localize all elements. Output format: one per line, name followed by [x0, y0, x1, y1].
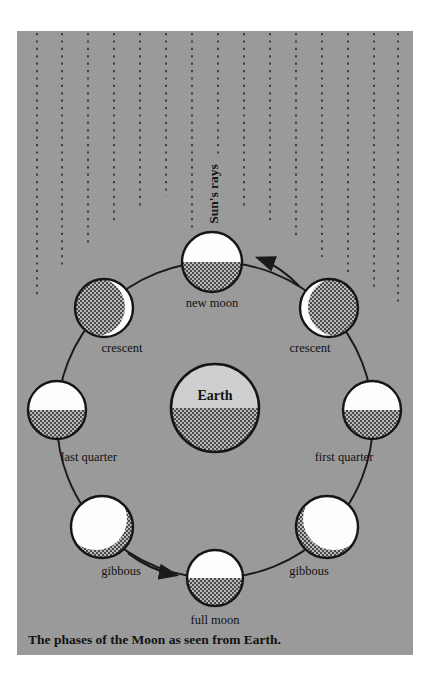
- label-crescent-left: crescent: [102, 341, 143, 355]
- label-first-quarter: first quarter: [315, 450, 374, 464]
- figure-caption: The phases of the Moon as seen from Eart…: [28, 632, 281, 647]
- label-new-moon: new moon: [186, 296, 239, 310]
- earth-label: Earth: [198, 388, 233, 403]
- label-gibbous-right: gibbous: [289, 564, 329, 578]
- sun-rays-label: Sun's rays: [206, 164, 221, 224]
- label-gibbous-left: gibbous: [101, 564, 141, 578]
- label-last-quarter: last quarter: [61, 450, 118, 464]
- moon-phases-diagram-svg: Sun's rays Earth new moon: [0, 0, 440, 689]
- label-crescent-right: crescent: [290, 341, 331, 355]
- label-full-moon: full moon: [191, 613, 241, 627]
- moon-phases-figure: Sun's rays Earth new moon: [0, 0, 440, 689]
